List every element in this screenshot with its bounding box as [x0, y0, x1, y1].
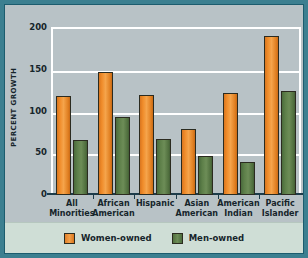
bar-african-american-men-owned: [115, 117, 130, 195]
x-label-pacific-islander: PacificIslander: [254, 199, 304, 219]
x-axis-tick: [176, 194, 177, 199]
legend-label-men-owned: Men-owned: [189, 233, 244, 243]
legend-item-women-owned: Women-owned: [64, 233, 152, 244]
x-axis-tick: [218, 194, 219, 199]
y-axis-tick-50: 50: [21, 147, 47, 157]
bar-asian-american-women-owned: [181, 129, 196, 195]
y-axis-tick-0: 0: [21, 189, 47, 199]
y-axis-tick-labels: 050100150200: [17, 5, 47, 253]
bar-pacific-islander-men-owned: [281, 91, 296, 195]
bar-hispanic-women-owned: [139, 95, 154, 195]
bar-all-minorities-women-owned: [56, 96, 71, 195]
bar-american-indian-women-owned: [223, 93, 238, 195]
legend-item-men-owned: Men-owned: [172, 233, 244, 244]
legend-swatch-women-owned: [64, 233, 75, 244]
chart-figure: PERCENT GROWTH 050100150200 AllMinoritie…: [0, 0, 308, 258]
bar-all-minorities-men-owned: [73, 140, 88, 195]
x-axis-tick: [93, 194, 94, 199]
bar-american-indian-men-owned: [240, 162, 255, 195]
bar-series-container: [51, 27, 301, 195]
legend-swatch-men-owned: [172, 233, 183, 244]
bar-african-american-women-owned: [98, 72, 113, 195]
bar-pacific-islander-women-owned: [264, 36, 279, 195]
y-axis-tick-200: 200: [21, 22, 47, 32]
bar-hispanic-men-owned: [156, 139, 171, 195]
y-axis-tick-100: 100: [21, 106, 47, 116]
legend-label-women-owned: Women-owned: [81, 233, 152, 243]
chart-legend: Women-owned Men-owned: [5, 222, 303, 253]
chart-canvas: PERCENT GROWTH 050100150200 AllMinoritie…: [4, 4, 304, 254]
x-axis-tick: [259, 194, 260, 199]
bar-asian-american-men-owned: [198, 156, 213, 195]
x-axis-tick: [134, 194, 135, 199]
y-axis-tick-150: 150: [21, 64, 47, 74]
